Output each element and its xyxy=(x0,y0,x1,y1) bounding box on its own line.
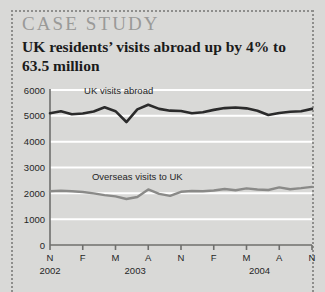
x-axis-tick-label: A xyxy=(145,252,152,263)
x-axis-tick-label: F xyxy=(211,252,217,263)
y-axis-tick-label: 3000 xyxy=(24,162,45,173)
y-axis-tick-label: 2000 xyxy=(24,188,45,199)
series-label: Overseas visits to UK xyxy=(92,171,183,182)
y-axis-tick-label: 6000 xyxy=(24,85,45,96)
y-axis-tick-label: 5000 xyxy=(24,110,45,121)
card-border-left xyxy=(11,10,13,292)
page-title: UK residents’ visits abroad up by 4% to … xyxy=(22,38,310,75)
series-label: UK visits abroad xyxy=(84,85,153,96)
chart-svg: 0100020003000400050006000NFMANFMAN200220… xyxy=(18,82,318,282)
card-border-top xyxy=(11,10,314,12)
case-study-card: CASE STUDY UK residents’ visits abroad u… xyxy=(0,0,325,292)
y-axis-tick-label: 0 xyxy=(40,240,45,251)
y-axis-tick-label: 1000 xyxy=(24,214,45,225)
series-line xyxy=(50,105,312,122)
x-axis-tick-label: M xyxy=(112,252,120,263)
x-axis-tick-label: N xyxy=(47,252,54,263)
x-axis-year-label: 2002 xyxy=(39,265,60,276)
x-axis-tick-label: N xyxy=(178,252,185,263)
y-axis-tick-label: 4000 xyxy=(24,136,45,147)
x-axis-tick-label: F xyxy=(80,252,86,263)
x-axis-tick-label: M xyxy=(243,252,251,263)
case-study-kicker: CASE STUDY xyxy=(22,13,160,35)
x-axis-tick-label: A xyxy=(276,252,283,263)
x-axis-year-label: 2003 xyxy=(125,265,146,276)
x-axis-year-label: 2004 xyxy=(249,265,270,276)
line-chart: 0100020003000400050006000NFMANFMAN200220… xyxy=(18,82,318,282)
x-axis-tick-label: N xyxy=(309,252,316,263)
headline-line-1: UK residents’ visits abroad up by 4% xyxy=(22,38,269,55)
